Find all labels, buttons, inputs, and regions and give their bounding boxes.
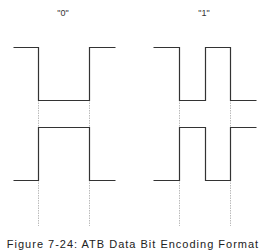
bit-one-upper-waveform — [154, 48, 257, 101]
timing-guide-lines — [39, 100, 231, 226]
figure-caption: Figure 7-24: ATB Data Bit Encoding Forma… — [0, 238, 266, 252]
bit-zero-lower-waveform — [14, 128, 116, 181]
bit-zero-upper-waveform — [14, 48, 116, 101]
bit-one-lower-waveform — [154, 128, 257, 181]
bit-zero-label: "0" — [57, 8, 68, 18]
bit-one-label: "1" — [198, 8, 209, 18]
waveforms — [14, 48, 257, 181]
